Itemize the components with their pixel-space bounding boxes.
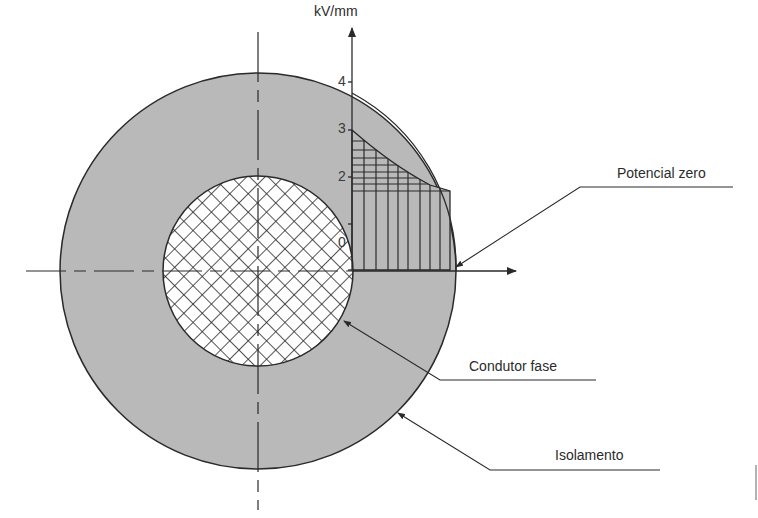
y-axis-unit-label: kV/mm [314, 3, 358, 19]
label-phase-conductor: Condutor fase [469, 358, 557, 374]
cable-diagram: kV/mm 0 1 2 3 4 Potencial zero Condutor … [0, 0, 758, 518]
tick-2: 2 [338, 168, 346, 184]
tick-0: 0 [338, 234, 346, 250]
label-zero-potential: Potencial zero [617, 165, 706, 181]
tick-3: 3 [338, 120, 346, 136]
label-insulation: Isolamento [555, 447, 623, 463]
diagram-canvas [0, 0, 758, 518]
tick-4: 4 [338, 73, 346, 89]
